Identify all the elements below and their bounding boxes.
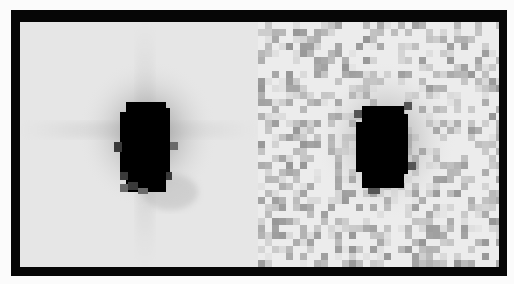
image-panels bbox=[20, 22, 499, 267]
right-image-panel bbox=[258, 22, 499, 267]
right-noisy-point-source-image bbox=[258, 22, 499, 267]
image-frame bbox=[11, 10, 507, 276]
left-point-source-image bbox=[20, 22, 258, 267]
left-image-panel bbox=[20, 22, 258, 267]
